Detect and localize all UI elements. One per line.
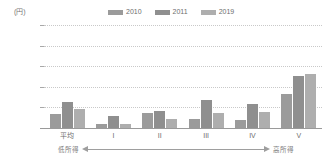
bar-2010-III: [189, 119, 200, 128]
legend-label-2011: 2011: [173, 8, 188, 16]
arrow-right-head-icon: [264, 146, 270, 152]
legend-swatch-2019: [201, 10, 216, 15]
bar-group: [142, 25, 177, 128]
legend-label-2019: 2019: [219, 8, 235, 16]
bar-2010-II: [142, 113, 153, 128]
bar-series-container: [44, 25, 322, 128]
arrow-shaft: [87, 149, 265, 150]
bar-2011-IV: [247, 104, 258, 128]
bar-group: [96, 25, 131, 128]
legend-item-2011: 2011: [155, 8, 188, 16]
plot-area: 25,00020,00015,00010,0005,0000: [44, 25, 322, 128]
bar-2019-I: [120, 124, 131, 128]
bar-2010-V: [281, 94, 292, 128]
bar-2019-III: [213, 113, 224, 128]
bar-group: [50, 25, 85, 128]
x-axis-label: III: [188, 131, 224, 142]
income-low-label: 低所得: [58, 145, 79, 154]
legend-item-2010: 2010: [108, 8, 142, 16]
bar-chart: (円) 2010 2011 2019 25,00020,00015,00010,…: [0, 0, 329, 158]
income-double-arrow-icon: [82, 146, 270, 153]
x-axis-category-labels: 平均IIIIIIIVV: [44, 131, 322, 142]
legend-label-2010: 2010: [126, 8, 142, 16]
bar-group: [189, 25, 224, 128]
bar-group: [281, 25, 316, 128]
bar-2011-II: [154, 111, 165, 128]
bar-2010-I: [96, 124, 107, 128]
legend-item-2019: 2019: [201, 8, 235, 16]
bar-2019-II: [166, 119, 177, 128]
x-axis-label: V: [281, 131, 317, 142]
income-high-label: 高所得: [273, 145, 294, 154]
x-axis-label: 平均: [49, 131, 85, 142]
y-axis-unit-label: (円): [14, 6, 26, 16]
bar-2019-IV: [259, 112, 270, 128]
bar-2019-平均: [74, 109, 85, 128]
bar-2011-III: [201, 100, 212, 128]
income-gradient-annotation: 低所得 高所得: [44, 143, 322, 156]
bar-2019-V: [305, 74, 316, 128]
x-axis-label: IV: [234, 131, 270, 142]
legend-swatch-2011: [155, 10, 170, 15]
x-axis-line: [40, 128, 322, 129]
chart-legend: 2010 2011 2019: [108, 7, 234, 17]
x-axis-label: II: [142, 131, 178, 142]
bar-group: [235, 25, 270, 128]
bar-2011-I: [108, 116, 119, 128]
bar-2011-V: [293, 76, 304, 128]
legend-swatch-2010: [108, 10, 123, 15]
bar-2010-平均: [50, 114, 61, 128]
bar-2011-平均: [62, 102, 73, 128]
bar-2010-IV: [235, 120, 246, 128]
x-axis-label: I: [95, 131, 131, 142]
